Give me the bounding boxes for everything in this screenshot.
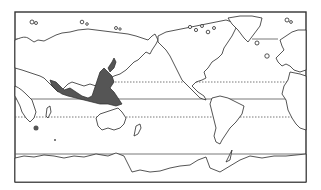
island (285, 18, 289, 22)
world-map (0, 0, 321, 190)
island (80, 20, 84, 24)
island (201, 25, 204, 28)
iceland-island (255, 41, 259, 45)
ocean-island-dot (54, 139, 56, 141)
island (30, 20, 34, 24)
island (119, 28, 121, 30)
british-isles-island (265, 54, 269, 58)
island (86, 23, 89, 26)
island (115, 27, 118, 30)
island (213, 27, 216, 30)
island (188, 25, 191, 28)
island (290, 21, 293, 24)
island (206, 30, 210, 34)
island (35, 22, 38, 25)
madagascar-shaded-spot (34, 126, 39, 131)
island (194, 28, 197, 31)
